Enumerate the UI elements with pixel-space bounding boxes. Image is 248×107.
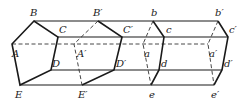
label-a: a xyxy=(144,48,150,59)
label-A: A xyxy=(11,48,19,59)
label-d-prime: d′ xyxy=(224,58,233,69)
longitudinal-edges xyxy=(12,21,228,85)
label-e: e xyxy=(149,89,155,100)
prism-diagram: B C A D E B′ C′ A′ D′ E′ b c a d e b′ c′… xyxy=(0,0,248,107)
label-C-prime: C′ xyxy=(123,24,134,35)
label-E-prime: E′ xyxy=(77,89,88,100)
label-e-prime: e′ xyxy=(211,89,220,100)
label-D-prime: D′ xyxy=(115,58,127,69)
label-D: D xyxy=(51,58,60,69)
label-E: E xyxy=(14,89,23,100)
label-C: C xyxy=(59,24,67,35)
label-b-prime: b′ xyxy=(215,7,224,18)
label-B: B xyxy=(29,7,37,18)
label-c: c xyxy=(166,24,172,35)
label-B-prime: B′ xyxy=(92,7,103,18)
label-a-prime: a′ xyxy=(209,48,218,59)
label-c-prime: c′ xyxy=(229,24,238,35)
label-b: b xyxy=(151,7,157,18)
label-d: d xyxy=(161,58,167,69)
label-A-prime: A′ xyxy=(76,48,87,59)
